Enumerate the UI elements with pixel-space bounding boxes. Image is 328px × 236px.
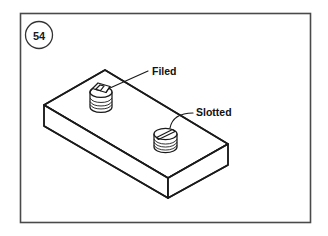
figure-number-badge: 54: [26, 22, 53, 49]
screw-head-filed: [90, 83, 112, 112]
plate-block: [44, 70, 228, 198]
callout-slotted-label: Slotted: [196, 106, 232, 118]
callout-filed-label: Filed: [152, 65, 177, 77]
screw-head-slotted: [154, 128, 177, 152]
figure-illustration: 54: [0, 0, 328, 236]
figure-number-text: 54: [33, 30, 46, 42]
technical-drawing-canvas: 54: [0, 0, 328, 236]
